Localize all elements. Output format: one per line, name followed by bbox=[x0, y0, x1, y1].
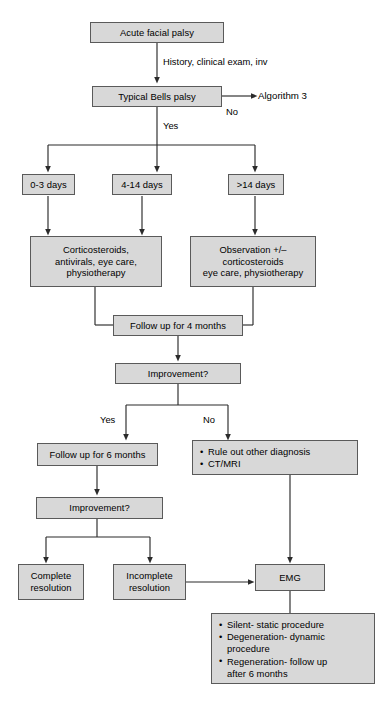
node-label: 0-3 days bbox=[30, 179, 66, 191]
bullet-item: Degeneration- dynamic bbox=[219, 631, 368, 643]
node-label-line-2: resolution bbox=[30, 582, 71, 594]
edge-label-bells-no: No bbox=[226, 106, 238, 117]
node-follow-up-6-months[interactable]: Follow up for 6 months bbox=[37, 443, 158, 466]
node-label-line-3: eye care, physiotherapy bbox=[203, 267, 304, 279]
node-label: >14 days bbox=[237, 179, 276, 191]
node-label-line-1: Complete bbox=[31, 570, 72, 582]
node-label: 4-14 days bbox=[121, 179, 163, 191]
edge-label-bells-yes: Yes bbox=[163, 120, 178, 131]
node-emg-outcomes[interactable]: Silent- static procedure Degeneration- d… bbox=[211, 613, 375, 684]
node-emg[interactable]: EMG bbox=[255, 564, 325, 591]
edge-label-history-exam: History, clinical exam, inv bbox=[163, 56, 268, 67]
node-days-0-3[interactable]: 0-3 days bbox=[22, 174, 75, 195]
node-label-line-2: antivirals, eye care, bbox=[55, 256, 137, 268]
node-algorithm-3[interactable]: Algorithm 3 bbox=[258, 90, 307, 101]
node-label-line-2: resolution bbox=[129, 582, 170, 594]
node-acute-facial-palsy[interactable]: Acute facial palsy bbox=[90, 22, 224, 43]
node-label: Improvement? bbox=[148, 368, 209, 380]
edge-label-improvement1-no: No bbox=[203, 414, 215, 425]
node-label: Typical Bells palsy bbox=[118, 91, 196, 103]
node-label: Acute facial palsy bbox=[120, 27, 194, 39]
node-days-gt-14[interactable]: >14 days bbox=[228, 174, 284, 195]
node-label-line-1: Observation +/– bbox=[219, 244, 286, 256]
bullet-item: Regeneration- follow up bbox=[219, 656, 368, 668]
node-incomplete-resolution[interactable]: Incomplete resolution bbox=[113, 564, 186, 600]
flowchart-canvas: Acute facial palsy History, clinical exa… bbox=[0, 0, 387, 702]
node-improvement-1[interactable]: Improvement? bbox=[115, 363, 241, 384]
node-label-line-1: Corticosteroids, bbox=[63, 244, 129, 256]
node-improvement-2[interactable]: Improvement? bbox=[36, 497, 163, 519]
node-treatment-early[interactable]: Corticosteroids, antivirals, eye care, p… bbox=[30, 236, 162, 287]
bullet-item: Rule out other diagnosis bbox=[200, 446, 351, 458]
node-label: Improvement? bbox=[69, 502, 130, 514]
node-label-line-3: physiotherapy bbox=[66, 267, 125, 279]
bullet-item-continuation: procedure bbox=[219, 643, 368, 655]
edge-label-improvement1-yes: Yes bbox=[100, 414, 115, 425]
bullet-item: Silent- static procedure bbox=[219, 619, 368, 631]
node-workup[interactable]: Rule out other diagnosis CT/MRI bbox=[192, 440, 358, 475]
node-label: Follow up for 6 months bbox=[50, 449, 146, 461]
node-label: Follow up for 4 months bbox=[130, 320, 226, 332]
node-days-4-14[interactable]: 4-14 days bbox=[112, 174, 172, 195]
node-label-line-1: Incomplete bbox=[126, 570, 172, 582]
node-follow-up-4-months[interactable]: Follow up for 4 months bbox=[113, 315, 243, 336]
node-label: EMG bbox=[279, 572, 301, 584]
node-label-line-2: corticosteroids bbox=[222, 256, 283, 268]
node-typical-bells-palsy[interactable]: Typical Bells palsy bbox=[92, 86, 222, 107]
bullet-item: CT/MRI bbox=[200, 458, 351, 470]
bullet-item-continuation: after 6 months bbox=[219, 668, 368, 680]
node-complete-resolution[interactable]: Complete resolution bbox=[18, 564, 84, 600]
node-treatment-late[interactable]: Observation +/– corticosteroids eye care… bbox=[190, 236, 316, 287]
